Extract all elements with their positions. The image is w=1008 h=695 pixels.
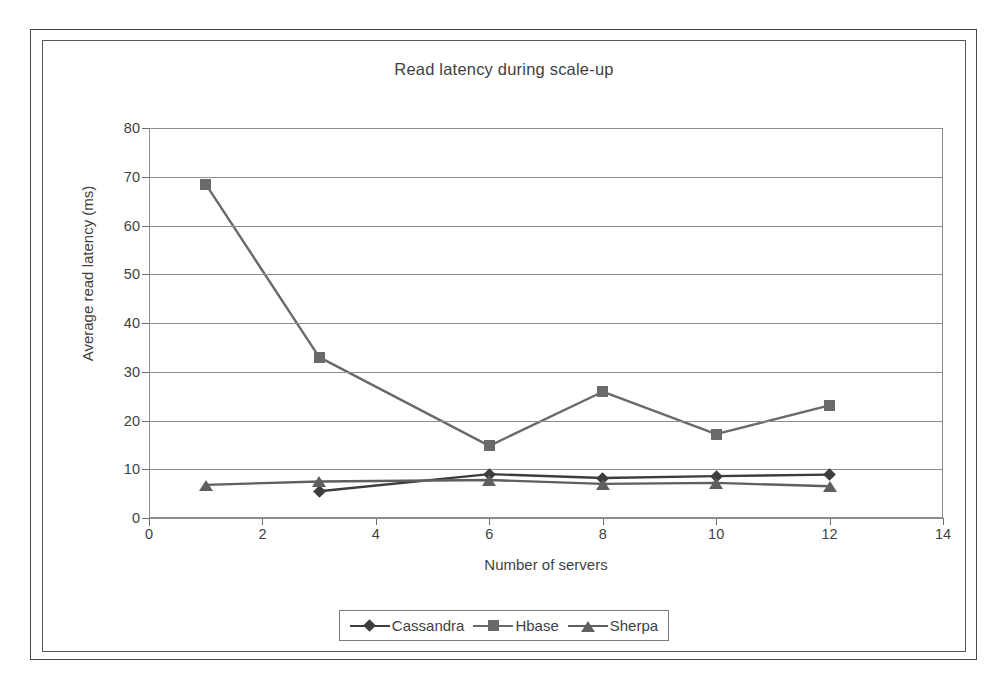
x-tick-label: 14 (923, 526, 963, 542)
legend-item-sherpa[interactable]: Sherpa (565, 617, 661, 634)
x-tick-mark (603, 518, 604, 525)
y-tick-label: 80 (100, 120, 140, 136)
triangle-marker-icon (823, 481, 837, 492)
square-marker-icon (711, 429, 722, 440)
x-tick-label: 2 (242, 526, 282, 542)
y-tick-mark (142, 274, 149, 275)
chart-legend: CassandraHbaseSherpa (339, 610, 669, 641)
triangle-marker-icon (312, 476, 326, 487)
x-axis-tick-labels: 02468101214 (149, 526, 943, 548)
y-tick-label: 70 (100, 169, 140, 185)
x-tick-label: 8 (583, 526, 623, 542)
square-marker-icon (484, 440, 495, 451)
square-marker-icon (597, 386, 608, 397)
x-tick-label: 0 (129, 526, 169, 542)
y-axis-tick-labels: 01020304050607080 (92, 128, 140, 518)
y-tick-mark (142, 128, 149, 129)
y-tick-mark (142, 421, 149, 422)
chart-title: Read latency during scale-up (42, 60, 966, 79)
y-tick-mark (142, 226, 149, 227)
x-tick-label: 12 (810, 526, 850, 542)
chart-figure: Read latency during scale-up Average rea… (42, 40, 966, 652)
y-tick-label: 40 (100, 315, 140, 331)
diamond-marker-icon (363, 619, 376, 632)
legend-key-sherpa (568, 619, 608, 633)
x-axis-title: Number of servers (149, 556, 943, 573)
legend-label: Sherpa (610, 617, 658, 634)
y-tick-label: 10 (100, 461, 140, 477)
y-tick-label: 60 (100, 218, 140, 234)
square-marker-icon (824, 400, 835, 411)
y-tick-mark (142, 177, 149, 178)
legend-item-cassandra[interactable]: Cassandra (347, 617, 468, 634)
legend-label: Hbase (515, 617, 558, 634)
y-tick-mark (142, 372, 149, 373)
square-marker-icon (488, 620, 499, 631)
x-tick-mark (716, 518, 717, 525)
triangle-marker-icon (596, 479, 610, 490)
y-tick-mark (142, 469, 149, 470)
legend-item-hbase[interactable]: Hbase (470, 617, 561, 634)
y-tick-label: 30 (100, 364, 140, 380)
y-tick-label: 0 (100, 510, 140, 526)
legend-label: Cassandra (392, 617, 465, 634)
square-marker-icon (200, 179, 211, 190)
triangle-marker-icon (482, 475, 496, 486)
x-tick-label: 6 (469, 526, 509, 542)
y-tick-mark (142, 323, 149, 324)
plot-area (149, 128, 943, 518)
plot-border (149, 128, 943, 518)
legend-key-hbase (473, 619, 513, 633)
legend-key-cassandra (350, 619, 390, 633)
x-tick-mark (376, 518, 377, 525)
square-marker-icon (314, 352, 325, 363)
y-tick-label: 20 (100, 413, 140, 429)
y-tick-mark (142, 518, 149, 519)
x-tick-mark (943, 518, 944, 525)
x-tick-mark (262, 518, 263, 525)
triangle-marker-icon (199, 480, 213, 491)
x-tick-mark (830, 518, 831, 525)
triangle-marker-icon (709, 478, 723, 489)
x-tick-label: 10 (696, 526, 736, 542)
y-tick-label: 50 (100, 266, 140, 282)
x-tick-label: 4 (356, 526, 396, 542)
x-tick-mark (489, 518, 490, 525)
triangle-marker-icon (581, 621, 595, 632)
gridline (149, 518, 943, 519)
